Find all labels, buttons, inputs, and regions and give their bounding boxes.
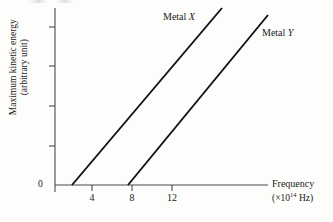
x-axis-units-tail: Hz): [297, 193, 314, 203]
origin-label: 0: [38, 180, 43, 190]
series-label-metal-y-symbol: Y: [288, 27, 294, 38]
series-label-metal-x: Metal X: [163, 12, 195, 22]
series-label-metal-x-prefix: Metal: [163, 11, 189, 22]
series-label-metal-x-symbol: X: [189, 11, 195, 22]
y-axis-title: Maximum kinetic energy (arbitrary unit): [9, 1, 30, 133]
y-axis-title-line1: Maximum kinetic energy: [8, 19, 18, 115]
x-axis-title: Frequency: [272, 179, 314, 189]
series-label-metal-y: Metal Y: [262, 28, 293, 38]
x-tick-label-4: 4: [90, 193, 95, 203]
x-axis-units: (×1014 Hz): [272, 194, 313, 204]
photoelectric-effect-chart: Maximum kinetic energy (arbitrary unit) …: [0, 0, 333, 222]
y-axis-title-line2: (arbitrary unit): [20, 1, 30, 133]
series-line-metal-y: [128, 15, 268, 185]
series-label-metal-y-prefix: Metal: [262, 27, 288, 38]
x-axis-units-base: (×10: [272, 193, 290, 203]
series-line-metal-x: [72, 8, 222, 185]
x-tick-label-12: 12: [167, 193, 177, 203]
x-tick-label-8: 8: [130, 193, 135, 203]
